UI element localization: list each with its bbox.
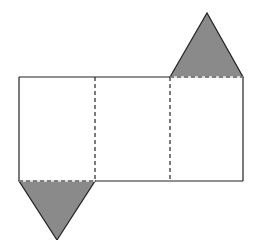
bottom-triangle-face (19, 181, 95, 240)
top-triangle-face (170, 13, 243, 77)
prism-net-diagram (0, 0, 260, 240)
